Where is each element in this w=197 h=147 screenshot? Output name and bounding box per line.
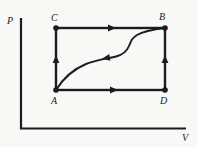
vertex-dot-B — [162, 25, 168, 31]
axes-lines — [21, 18, 186, 129]
axis-label-P: P — [6, 15, 13, 26]
vertex-label-A: A — [50, 95, 58, 106]
arrow-left-edge-up — [53, 55, 60, 63]
arrow-top-edge-right — [108, 25, 116, 32]
vertex-label-C: C — [51, 12, 58, 23]
cycle-rectangle — [56, 28, 165, 90]
vertex-dot-D — [162, 87, 168, 93]
arrow-bottom-edge-right — [110, 87, 118, 94]
vertex-label-B: B — [159, 11, 165, 22]
vertex-dot-A — [53, 87, 59, 93]
axis-label-V: V — [182, 132, 190, 143]
vertex-dot-C — [53, 25, 59, 31]
pv-diagram-canvas: P V C B A D — [0, 0, 197, 147]
arrow-right-edge-up — [162, 55, 169, 63]
s-curve-path — [56, 28, 165, 90]
pv-diagram-figure: P V C B A D — [0, 0, 197, 147]
arrow-curve-toward-A — [101, 54, 110, 62]
vertex-label-D: D — [159, 95, 168, 106]
